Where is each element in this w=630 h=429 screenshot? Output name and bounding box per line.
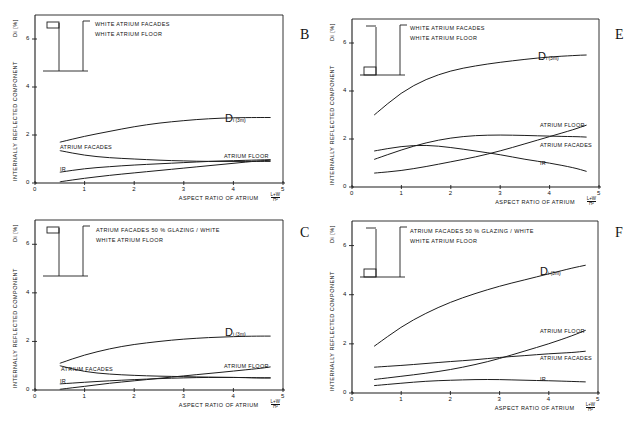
x-tick-label: 5 [281,393,284,399]
y-tick-label: 4 [343,291,346,297]
curve-label-ir: IR [60,166,66,172]
y-tick-label: 2 [26,337,29,343]
x-tick-label: 0 [350,396,353,402]
legend-b-line2: WHITE ATRIUM FLOOR [95,31,162,37]
y-tick-label: 0 [26,386,29,392]
x-axis-label: ASPECT RATIO OF ATRIUM [179,402,259,408]
x-axis-unit: L+WH² [271,193,280,202]
series-atrium-floor [374,125,586,173]
series-di-m [374,55,586,115]
y-tick-label: 6 [26,240,29,246]
y-axis-symbol: Di [%] [329,23,335,41]
y-axis-symbol: Di [%] [12,19,18,37]
y-tick-label: 6 [343,39,346,45]
x-tick-label: 4 [548,190,551,196]
curve-label-di: Di (3m) [540,265,561,277]
plot-c [0,215,315,429]
x-tick-label: 5 [596,396,599,402]
legend-c-line2: WHITE ATRIUM FLOOR [96,237,163,243]
y-tick-label: 0 [343,183,346,189]
curve-label-di: Di (3m) [225,112,246,124]
legend-b-line1: WHITE ATRIUM FACADES [95,21,170,27]
y-axis-label: INTERNALLY REFLECTED COMPONENT [12,268,18,388]
series-ir [374,145,586,171]
y-axis-label: INTERNALLY REFLECTED COMPONENT [329,271,335,391]
y-axis-label: INTERNALLY REFLECTED COMPONENT [329,65,335,185]
curve-label-ir: IR [540,376,546,382]
x-tick-label: 0 [33,393,36,399]
series-di-m [374,265,586,346]
x-tick-label: 4 [547,396,550,402]
x-tick-label: 3 [182,186,185,192]
legend-f-line1: ATRIUM FACADES 50 % GLAZING / WHITE [410,228,534,234]
x-axis-unit: L+WH² [586,403,595,412]
x-tick-label: 3 [498,190,501,196]
x-tick-label: 1 [83,186,86,192]
panel-letter-c: C [300,225,309,241]
legend-e-line1: WHITE ATRIUM FACADES [410,25,485,31]
curve-label-ir: IR [60,378,66,384]
curve-label-floor: ATRIUM FLOOR [540,122,585,128]
panel-letter-e: E [615,27,624,43]
series-ir [60,377,271,384]
y-tick-label: 6 [26,35,29,41]
atrium-section-icon [43,21,90,71]
x-tick-label: 3 [498,396,501,402]
y-axis-symbol: Di [%] [12,224,18,242]
y-axis-label: INTERNALLY REFLECTED COMPONENT [12,61,18,181]
curve-label-facades: ATRIUM FACADES [540,355,592,361]
panel-f: F ATRIUM FACADES 50 % GLAZING / WHITE WH… [315,215,630,429]
x-tick-label: 0 [33,186,36,192]
series-ir [374,380,586,386]
x-tick-label: 3 [182,393,185,399]
atrium-section-icon [43,226,90,276]
panel-e: E WHITE ATRIUM FACADES WHITE ATRIUM FLOO… [315,0,630,214]
x-axis-unit: L+WH² [271,400,280,409]
panel-letter-f: F [615,225,623,241]
x-tick-label: 5 [281,186,284,192]
x-tick-label: 4 [231,393,234,399]
curve-label-di: Di (3m) [225,326,246,338]
plot-e [315,0,630,214]
y-tick-label: 4 [343,87,346,93]
x-tick-label: 2 [449,190,452,196]
legend-e-line2: WHITE ATRIUM FLOOR [410,35,477,41]
curve-label-facades: ATRIUM FACADES [60,144,112,150]
y-tick-label: 2 [343,135,346,141]
curve-label-facades: ATRIUM FACADES [540,142,592,148]
series-di-m [60,336,271,363]
curve-label-facades: ATRIUM FACADES [61,366,113,372]
x-tick-label: 2 [132,393,135,399]
x-tick-label: 2 [132,186,135,192]
x-tick-label: 0 [350,190,353,196]
x-tick-label: 1 [83,393,86,399]
curve-label-floor: ATRIUM FLOOR [540,328,585,334]
y-tick-label: 2 [26,131,29,137]
plot-f [315,215,630,429]
x-tick-label: 5 [597,190,600,196]
atrium-section-icon [360,25,407,75]
x-axis-label: ASPECT RATIO OF ATRIUM [179,195,259,201]
x-tick-label: 1 [399,396,402,402]
x-axis-label: ASPECT RATIO OF ATRIUM [495,405,575,411]
curve-label-floor: ATRIUM FLOOR [224,153,269,159]
panel-b: B WHITE ATRIUM FACADES WHITE ATRIUM FLOO… [0,0,315,214]
x-tick-label: 2 [448,396,451,402]
x-tick-label: 4 [231,186,234,192]
x-axis-label: ASPECT RATIO OF ATRIUM [495,199,575,205]
y-tick-label: 4 [26,289,29,295]
curve-label-di: Di (3m) [538,50,559,62]
y-tick-label: 4 [26,83,29,89]
y-tick-label: 2 [343,340,346,346]
y-tick-label: 0 [343,389,346,395]
y-axis-symbol: Di [%] [329,225,335,243]
x-axis-unit: L+WH² [587,197,596,206]
panel-c: C ATRIUM FACADES 50 % GLAZING / WHITE WH… [0,215,315,429]
atrium-section-icon [360,227,407,277]
y-tick-label: 6 [343,242,346,248]
curve-label-floor: ATRIUM FLOOR [224,363,269,369]
y-tick-label: 0 [26,179,29,185]
legend-f-line2: WHITE ATRIUM FLOOR [410,238,477,244]
x-tick-label: 1 [399,190,402,196]
panel-letter-b: B [300,27,309,43]
